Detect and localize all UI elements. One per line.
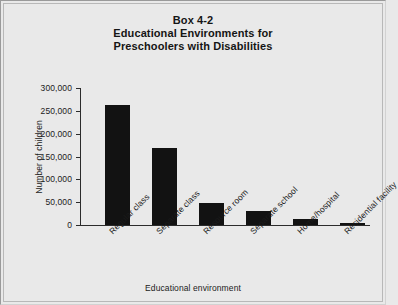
bar	[152, 148, 177, 225]
chart-title-line-2: Educational Environments for	[0, 27, 386, 40]
bar	[340, 223, 365, 225]
y-tick-mark	[76, 157, 80, 158]
y-tick-mark	[76, 225, 80, 226]
y-tick-mark	[76, 179, 80, 180]
bar	[293, 219, 318, 225]
y-tick-mark	[76, 202, 80, 203]
bar	[199, 203, 224, 225]
bar	[246, 211, 271, 225]
y-tick-label: 0	[67, 220, 72, 230]
y-tick-mark	[76, 111, 80, 112]
bar	[105, 105, 130, 225]
x-axis-line	[80, 225, 370, 226]
y-tick-label: 250,000	[41, 106, 72, 116]
plot-area: 050,000100,000150,000200,000250,000300,0…	[80, 88, 370, 226]
y-tick-label: 50,000	[45, 197, 72, 207]
chart-title-line-1: Box 4-2	[0, 14, 386, 27]
y-tick-label: 150,000	[41, 152, 72, 162]
x-axis-title: Educational environment	[0, 283, 386, 293]
chart-title-line-3: Preschoolers with Disabilities	[0, 40, 386, 53]
y-tick-label: 100,000	[41, 174, 72, 184]
y-tick-mark	[76, 134, 80, 135]
y-tick-label: 300,000	[41, 83, 72, 93]
y-tick-label: 200,000	[41, 129, 72, 139]
y-tick-mark	[76, 88, 80, 89]
y-axis-line	[80, 88, 81, 226]
chart-title: Box 4-2 Educational Environments for Pre…	[0, 14, 386, 53]
